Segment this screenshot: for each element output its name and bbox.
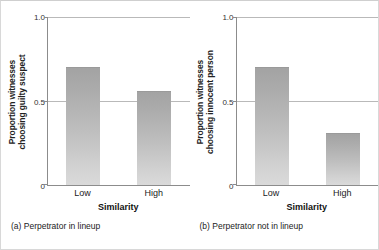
bar-slot-low-b [237, 17, 308, 185]
plot-block-a: Proportion witnesses choosing guilty sus… [1, 1, 190, 186]
x-tick-label-low-a: Low [47, 188, 118, 198]
bar-slot-low-a [48, 17, 119, 185]
panels-row: Proportion witnesses choosing guilty sus… [1, 1, 378, 249]
x-tick-label-low-b: Low [236, 188, 307, 198]
bars-group-b [237, 17, 379, 185]
y-axis-label-a-line1: Proportion witnesses [6, 59, 16, 143]
y-axis-label-a: Proportion witnesses choosing guilty sus… [1, 17, 31, 186]
plot-area-b [236, 17, 379, 186]
bar-slot-high-b [307, 17, 378, 185]
x-tick-label-high-a: High [118, 188, 189, 198]
bar-high-b [326, 133, 360, 185]
y-axis-label-b-line2: choosing innocent person [205, 50, 215, 154]
figure-container: Proportion witnesses choosing guilty sus… [0, 0, 379, 250]
panel-caption-b: (b) Perpetrator not in lineup [200, 221, 379, 231]
axis-area-a: 1.0 0.5 0 [31, 17, 190, 186]
x-tick-labels-b: Low High [236, 188, 379, 198]
bar-low-a [66, 67, 100, 185]
panel-caption-a: (a) Perpetrator in lineup [11, 221, 190, 231]
x-tick-labels-a: Low High [47, 188, 190, 198]
x-axis-label-b: Similarity [236, 202, 379, 212]
chart-panel-a: Proportion witnesses choosing guilty sus… [1, 1, 190, 249]
bar-low-b [255, 67, 289, 185]
y-axis-label-b: Proportion witnesses choosing innocent p… [190, 17, 220, 186]
x-axis-label-a: Similarity [47, 202, 190, 212]
y-tick-label-0-b: 0 [229, 182, 233, 191]
axis-area-b: 1.0 0.5 0 [220, 17, 379, 186]
y-axis-label-b-line1: Proportion witnesses [195, 59, 205, 143]
bars-group-a [48, 17, 190, 185]
plot-block-b: Proportion witnesses choosing innocent p… [190, 1, 379, 186]
bar-high-a [137, 91, 171, 185]
x-tick-label-high-b: High [307, 188, 378, 198]
chart-panel-b: Proportion witnesses choosing innocent p… [190, 1, 379, 249]
bar-slot-high-a [119, 17, 190, 185]
y-axis-label-a-line2: choosing guilty suspect [16, 54, 26, 149]
y-tick-label-0-a: 0 [41, 182, 45, 191]
plot-area-a [47, 17, 190, 186]
